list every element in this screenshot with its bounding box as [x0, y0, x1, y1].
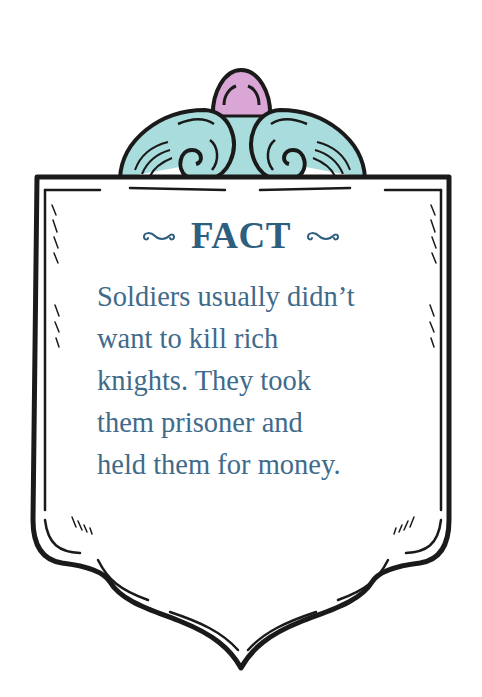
fact-body: Soldiers usually didn’t want to kill ric…	[97, 276, 417, 486]
fact-line: them prisoner and	[97, 402, 417, 444]
fact-title: FACT	[191, 214, 291, 257]
right-swash-icon	[305, 228, 341, 244]
left-swash-icon	[141, 228, 177, 244]
fact-line: held them for money.	[97, 444, 417, 486]
fact-line: Soldiers usually didn’t	[97, 276, 417, 318]
title-row: FACT	[0, 214, 482, 257]
fact-card: FACT Soldiers usually didn’t want to kil…	[0, 0, 482, 697]
fact-line: knights. They took	[97, 360, 417, 402]
fact-line: want to kill rich	[97, 318, 417, 360]
